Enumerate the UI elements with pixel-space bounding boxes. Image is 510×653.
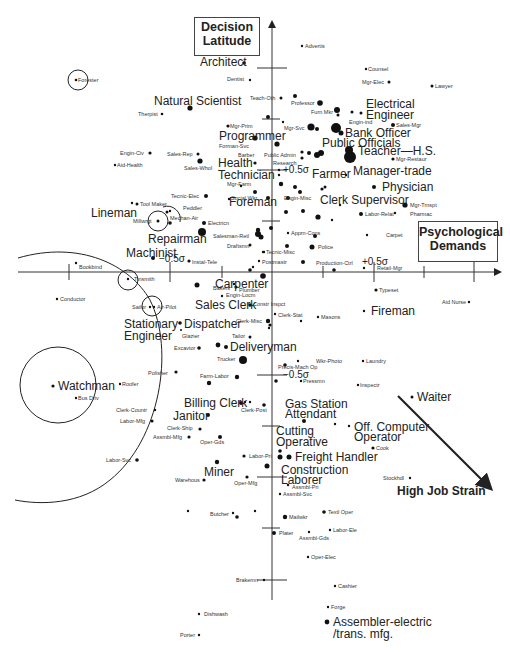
label-masons: Masons: [321, 315, 340, 321]
label-sales-rep: Sales-Rep: [167, 152, 193, 158]
label-clerk-misc: Clerk-Misc: [236, 319, 262, 325]
y-axis-title: Decision Latitude: [194, 17, 260, 56]
label-sailor: Sailor: [132, 305, 146, 311]
label-wkr-photo: Wkr-Photo: [316, 359, 342, 365]
label-tinsmith: Tinsmith: [134, 277, 155, 283]
label-pressmn: Pressmn: [303, 379, 325, 385]
label-mgr-svc: Mgr-Svc: [284, 126, 304, 132]
label-billing-clerk: Billing Clerk: [184, 397, 247, 409]
label-forman-svc: Forman-Svc: [219, 144, 249, 150]
label-pharmac: Pharmac: [410, 212, 432, 218]
label-warehous: Warehous: [175, 478, 200, 484]
label-inspectr: Inspectr: [360, 383, 380, 389]
label-watchman: Watchman: [58, 380, 115, 392]
label-mailwkr: Mailwkr: [289, 515, 308, 521]
label-postmastr: Postmastr: [262, 260, 287, 266]
label-mgr-farm: Mgr-Farm: [227, 182, 251, 188]
label-advertis: Advertis: [305, 44, 325, 50]
label-labor-mfg: Labor-Mfg: [120, 419, 145, 425]
label-plater: Plater: [279, 531, 293, 537]
label-dishwash: Dishwash: [204, 612, 228, 618]
label-programmer: Programmer: [219, 130, 286, 142]
label-tecnic-misc: Tecnic-Misc: [266, 250, 295, 256]
label-oper-gds: Oper-Gds: [200, 440, 224, 446]
label-forge: Forge: [331, 605, 345, 611]
label-air-pilot: Air-Pilot: [157, 305, 176, 311]
label-cashier: Cashier: [338, 584, 357, 590]
label-aid-health: Aid-Health: [117, 163, 143, 169]
label-fireman: Fireman: [371, 305, 415, 317]
label-freight-handler: Freight Handler: [295, 451, 378, 463]
label-engin-ind: Engin-ind: [349, 120, 372, 126]
job-strain-chart: Decision Latitude Psychological Demands …: [0, 0, 510, 653]
label-glazier: Glazier: [182, 334, 199, 340]
high-strain-arrow: [398, 396, 490, 488]
label-carpet: Carpet: [386, 233, 403, 239]
label-miner: Miner: [204, 466, 234, 478]
label-forester: Forester: [78, 78, 98, 84]
label-waiter: Waiter: [417, 391, 451, 403]
label-sales-whol: Sales-Whol: [184, 166, 212, 172]
label-mgr-prim: Mgr-Prim: [230, 124, 253, 130]
label-dentist: Dentist: [227, 77, 244, 83]
label-clerk-post: Clerk-Post: [241, 408, 267, 414]
label-bookbind: Bookbind: [79, 265, 102, 271]
label-textl-oper: Textl Oper: [328, 510, 353, 516]
label-mgr-trnspt: Mgr-Trnspt: [410, 203, 437, 209]
label-apprn-cons: Apprn-Cons: [291, 231, 320, 237]
label-public-admin: Public Admin: [264, 153, 296, 159]
label-elec-engineer: Engineer: [366, 109, 414, 121]
label-roofer: Roofer: [122, 382, 139, 388]
x-axis-title: Psychological Demands: [418, 221, 498, 262]
label-brakemn: Brakemn: [236, 578, 258, 584]
label-police: Police: [318, 245, 333, 251]
label-mgr-restaur: Mgr-Restaur: [396, 157, 427, 163]
label-tailor: Tailor: [232, 334, 245, 340]
label-butcher: Butcher: [210, 512, 229, 518]
label-clerk-supervisor: Clerk Supervisor: [320, 194, 409, 206]
label-clerk-stat: Clerk-Stat: [278, 313, 302, 319]
label-oper-elec: Oper-Elec: [311, 555, 336, 561]
label-assmbl-svc: Assmbl-Svc: [283, 492, 312, 498]
label-teach-oth: Teach-Oth: [250, 96, 275, 102]
label-assmbl-pri: Assmbl-Pri: [292, 485, 319, 491]
label-janitor: Janitor: [173, 410, 209, 422]
label-engin-locm: Engin-Locm: [226, 293, 255, 299]
label-manager-trade: Manager-trade: [353, 165, 432, 177]
label-constr-inspct: Constr Inspct: [253, 302, 285, 308]
label-excavtor: Excavtor: [174, 346, 195, 352]
label-labor-svc: Labor-Svc: [106, 458, 131, 464]
label-tool-maker: Tool Maker: [140, 202, 167, 208]
label-physician: Physician: [382, 181, 433, 193]
label-deliveryman: Deliveryman: [230, 341, 297, 353]
label-bakers: Bakers: [213, 286, 230, 292]
label-mgr-elec: Mgr-Elec: [362, 80, 384, 86]
label-counsel: Counsel: [368, 67, 388, 73]
label-sales-clerk: Sales Clerk: [195, 299, 256, 311]
label-furn-mkr: Furn Mkr: [311, 110, 333, 116]
label-engineer: Engineer: [124, 330, 172, 342]
label-trucker: Trucker: [217, 357, 235, 363]
label-precis-mach: Precis-Mach Op: [278, 365, 317, 371]
label-instal-tele: Instal-Tele: [192, 260, 217, 266]
label-machinist: Machinist: [126, 247, 177, 259]
label-electricn: Electricn: [208, 221, 229, 227]
label-dispatcher: Dispatcher: [184, 318, 241, 330]
label-aid-nurse: Aid Nurse: [442, 300, 466, 306]
label-salesman-retl: Salesman-Retl: [213, 234, 249, 240]
label-oper-mfg: Oper-Mfg: [234, 481, 257, 487]
y-axis-title-line1: Decision: [195, 20, 259, 34]
label-porter: Porter: [180, 633, 195, 639]
label-tecnic-elec: Tecnic-Elec: [171, 194, 199, 200]
label-lawyer: Lawyer: [435, 84, 453, 90]
label-sales-mgr: Sales-Mgr: [396, 123, 421, 129]
label-assmbl-mfg: Assmbl-Mfg: [153, 435, 182, 441]
label-operator: Operator: [354, 431, 401, 443]
label-retail-mgr: Retail-Mgr: [377, 266, 402, 272]
label-research: Research: [273, 161, 297, 167]
label-cook: Cook: [376, 446, 389, 452]
label-professor: Professor: [291, 101, 315, 107]
label-labor-relat: Labor-Relat: [365, 212, 394, 218]
label-lineman: Lineman: [91, 207, 137, 219]
y-axis-title-line2: Latitude: [195, 34, 259, 48]
